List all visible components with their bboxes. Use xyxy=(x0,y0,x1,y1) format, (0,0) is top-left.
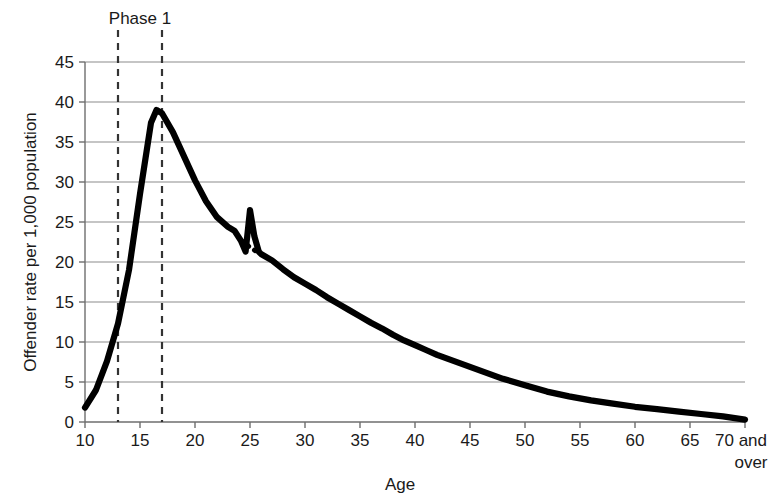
x-tick-label-10: 10 xyxy=(76,431,95,450)
x-tick-label-35: 35 xyxy=(351,431,370,450)
y-tick-label-25: 25 xyxy=(55,213,74,232)
chart-background xyxy=(0,0,779,500)
y-tick-label-15: 15 xyxy=(55,293,74,312)
x-tick-label-40: 40 xyxy=(406,431,425,450)
x-tick-label-20: 20 xyxy=(186,431,205,450)
x-tick-label-30: 30 xyxy=(296,431,315,450)
x-tick-label-55: 55 xyxy=(571,431,590,450)
y-tick-label-10: 10 xyxy=(55,333,74,352)
y-tick-label-30: 30 xyxy=(55,173,74,192)
offender-rate-by-age-chart: 051015202530354045 101520253035404550556… xyxy=(0,0,779,500)
y-tick-label-20: 20 xyxy=(55,253,74,272)
x-tick-label-15: 15 xyxy=(131,431,150,450)
x-tick-label-70-line2: over xyxy=(734,453,767,472)
x-tick-label-25: 25 xyxy=(241,431,260,450)
x-tick-label-60: 60 xyxy=(626,431,645,450)
phase-1-label: Phase 1 xyxy=(109,9,171,28)
y-tick-label-40: 40 xyxy=(55,93,74,112)
x-tick-label-65: 65 xyxy=(681,431,700,450)
x-tick-label-70: 70 and xyxy=(715,431,767,450)
y-axis-title: Offender rate per 1,000 population xyxy=(21,112,40,372)
y-tick-label-0: 0 xyxy=(65,413,74,432)
y-tick-label-35: 35 xyxy=(55,133,74,152)
x-tick-label-50: 50 xyxy=(516,431,535,450)
x-tick-label-45: 45 xyxy=(461,431,480,450)
y-tick-label-5: 5 xyxy=(65,373,74,392)
x-axis-title: Age xyxy=(385,475,415,494)
y-tick-label-45: 45 xyxy=(55,53,74,72)
